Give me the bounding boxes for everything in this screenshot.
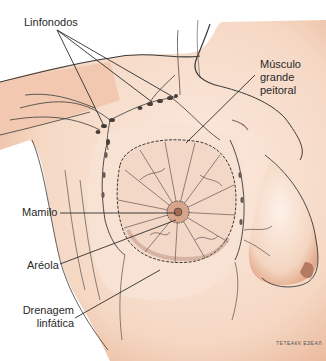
label-musculo-grande-peitoral: Músculo grande peitoral	[260, 58, 301, 97]
label-areola: Aréola	[27, 259, 59, 272]
label-musculo-line1: Músculo	[260, 58, 301, 71]
label-mamilo: Mamilo	[22, 206, 57, 219]
nipple	[174, 208, 182, 216]
label-linfonodos: Linfonodos	[24, 16, 78, 29]
label-musculo-line2: grande	[260, 71, 301, 84]
label-drenagem-line1: Drenagem	[20, 304, 74, 317]
artist-signature: ТЕТЕАКК ЕЗЕАЛ	[276, 340, 322, 346]
label-musculo-line3: peitoral	[260, 84, 301, 97]
label-drenagem-linfatica: Drenagem linfática	[20, 304, 74, 330]
label-drenagem-line2: linfática	[20, 317, 74, 330]
